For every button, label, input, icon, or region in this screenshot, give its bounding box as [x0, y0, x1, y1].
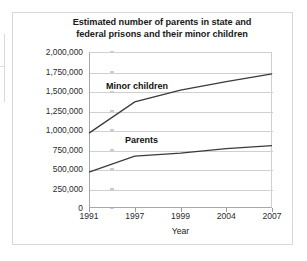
series-label-minor-children: Minor children	[105, 81, 169, 91]
x-axis-tickmark	[272, 208, 273, 212]
x-axis-tick-label: 2007	[262, 211, 281, 221]
x-axis-tick-label: 1991	[79, 211, 98, 221]
x-axis-title: Year	[89, 226, 272, 236]
x-axis-tickmark	[89, 208, 90, 212]
x-axis-tickmark	[181, 208, 182, 212]
series-line-parents	[89, 146, 272, 173]
x-axis-tick-label: 2004	[217, 211, 236, 221]
series-label-parents: Parents	[124, 135, 159, 145]
data-lines-layer	[0, 0, 307, 261]
x-axis-tickmark	[226, 208, 227, 212]
x-axis-tick-label: 1997	[125, 211, 144, 221]
x-axis-tick-label: 1999	[171, 211, 190, 221]
x-axis-tickmark	[135, 208, 136, 212]
chart-screenshot: Estimated number of parents in state and…	[0, 0, 307, 261]
